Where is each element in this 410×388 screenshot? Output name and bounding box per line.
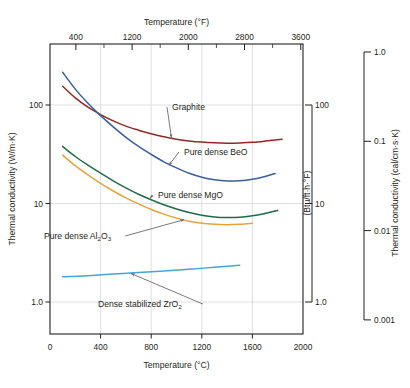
- thermal-conductivity-chart: 0400800120016002000Temperature (°C)40012…: [0, 0, 410, 388]
- tick-label-bottom: 1200: [192, 342, 211, 352]
- tick-label-top: 1200: [123, 32, 142, 42]
- axis-title-top: Temperature (°F): [144, 17, 209, 27]
- curve-label-pure-dense-mgo: Pure dense MgO: [158, 190, 223, 200]
- chart-canvas: 0400800120016002000Temperature (°C)40012…: [0, 0, 410, 388]
- tick-label-top: 2000: [179, 32, 198, 42]
- axis-title-bottom: Temperature (°C): [144, 360, 210, 370]
- tick-label-right-btu: 1.0: [315, 297, 327, 307]
- curve-label-pure-dense-beo: Pure dense BeO: [184, 147, 248, 157]
- tick-label-right-cal: 1.0: [374, 47, 386, 57]
- tick-label-bottom: 1600: [243, 342, 262, 352]
- curve-label-pure-dense-al2o3: Pure dense Al2O3: [44, 231, 112, 242]
- curve-annotations: GraphitePure dense BeOPure dense MgOPure…: [44, 102, 248, 310]
- curve-graphite: [63, 86, 282, 143]
- axis-title-left: Thermal conductivity (W/m·K): [7, 132, 17, 245]
- tick-label-left: 10: [34, 199, 44, 209]
- tick-label-right-btu: 100: [315, 100, 329, 110]
- tick-label-left: 100: [29, 100, 43, 110]
- curve-pure-dense-mgo: [63, 146, 278, 217]
- tick-label-bottom: 400: [94, 342, 108, 352]
- tick-label-left: 1.0: [31, 297, 43, 307]
- axis-left: 100101.0Thermal conductivity (W/m·K): [7, 100, 50, 307]
- tick-label-right-btu: 10: [315, 199, 325, 209]
- axis-top: 4001200200028003600Temperature (°F): [69, 17, 311, 50]
- tick-label-top: 3600: [291, 32, 310, 42]
- tick-label-bottom: 2000: [294, 342, 313, 352]
- tick-label-right-cal: 0.01: [374, 226, 391, 236]
- leader-line: [125, 220, 184, 236]
- axis-bottom: 0400800120016002000Temperature (°C): [48, 334, 313, 370]
- tick-label-top: 400: [69, 32, 83, 42]
- axis-title-right-cal: Thermal conductivity (cal/cm·s·K): [390, 129, 400, 257]
- curve-label-graphite: Graphite: [172, 102, 205, 112]
- curve-label-dense-stabilized-zro2: Dense stabilized ZrO2: [98, 299, 182, 310]
- tick-label-right-cal: 0.1: [374, 136, 386, 146]
- plot-frame: [50, 44, 303, 334]
- tick-label-right-cal: 0.001: [374, 315, 395, 325]
- axis-right-btu: 100101.0(Btu/ft·h·°F): [302, 100, 329, 307]
- axis-right-cal: 1.00.10.010.001Thermal conductivity (cal…: [364, 47, 400, 325]
- tick-label-bottom: 0: [48, 342, 53, 352]
- axis-title-right-btu: (Btu/ft·h·°F): [302, 170, 312, 215]
- tick-label-bottom: 800: [144, 342, 158, 352]
- gridlines: [50, 44, 303, 334]
- tick-label-top: 2800: [235, 32, 254, 42]
- leader-line: [167, 107, 171, 138]
- leader-line: [169, 152, 179, 165]
